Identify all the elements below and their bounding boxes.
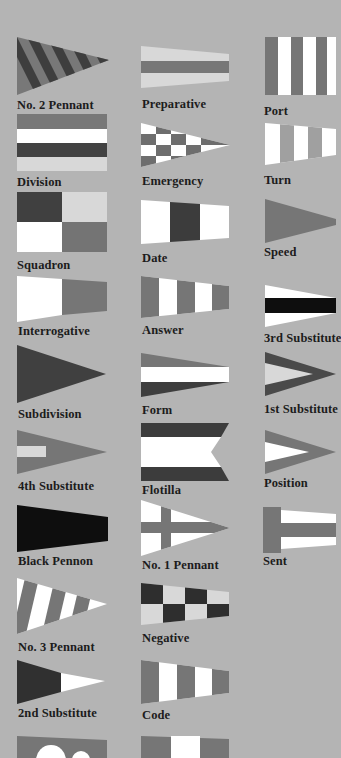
squadron-flag <box>17 192 107 252</box>
squadron-label: Squadron <box>17 258 70 273</box>
speed-label: Speed <box>264 245 296 260</box>
date-label: Date <box>142 251 167 266</box>
no-1-pennant-flag <box>141 500 233 558</box>
no-2-pennant-label: No. 2 Pennant <box>17 98 94 113</box>
no-2-pennant-flag <box>17 37 109 97</box>
form-flag <box>141 353 231 398</box>
1st-substitute-label: 1st Substitute <box>264 402 338 417</box>
2nd-substitute-flag <box>17 660 107 704</box>
answer-label: Answer <box>142 323 184 338</box>
3rd-substitute-flag <box>265 285 336 327</box>
subdivision-label: Subdivision <box>18 407 82 422</box>
sent-label: Sent <box>263 554 287 569</box>
3rd-substitute-label: 3rd Substitute <box>264 331 341 346</box>
emergency-flag <box>141 123 233 169</box>
interrogative-label: Interrogative <box>18 324 90 339</box>
preparative-label: Preparative <box>142 97 206 112</box>
black-pennon-flag <box>17 505 109 552</box>
emergency-label: Emergency <box>142 174 203 189</box>
code-flag <box>141 660 231 704</box>
no-1-pennant-label: No. 1 Pennant <box>142 558 219 573</box>
turn-flag <box>265 123 336 166</box>
speed-flag <box>265 199 336 244</box>
position-flag <box>265 430 336 475</box>
no-3-pennant-label: No. 3 Pennant <box>18 640 95 655</box>
partial-flag-col1 <box>17 736 107 758</box>
division-flag <box>17 114 107 171</box>
negative-label: Negative <box>142 631 189 646</box>
black-pennon-label: Black Pennon <box>18 554 93 569</box>
form-label: Form <box>142 403 172 418</box>
interrogative-flag <box>17 276 107 322</box>
turn-label: Turn <box>264 173 291 188</box>
flotilla-flag <box>141 423 231 483</box>
1st-substitute-flag <box>265 352 336 397</box>
preparative-flag <box>141 46 231 89</box>
answer-flag <box>141 276 231 318</box>
position-label: Position <box>264 476 308 491</box>
division-label: Division <box>17 175 62 190</box>
subdivision-flag <box>17 345 107 405</box>
4th-substitute-flag <box>17 430 107 475</box>
4th-substitute-label: 4th Substitute <box>18 479 94 494</box>
2nd-substitute-label: 2nd Substitute <box>18 706 97 721</box>
flotilla-label: Flotilla <box>142 483 181 498</box>
date-flag <box>141 200 231 244</box>
partial-flag-col2 <box>141 736 231 758</box>
sent-flag <box>263 507 336 553</box>
port-label: Port <box>264 104 288 119</box>
code-label: Code <box>142 708 170 723</box>
no-3-pennant-flag <box>17 578 109 638</box>
negative-flag <box>141 583 231 625</box>
port-flag <box>265 37 336 95</box>
